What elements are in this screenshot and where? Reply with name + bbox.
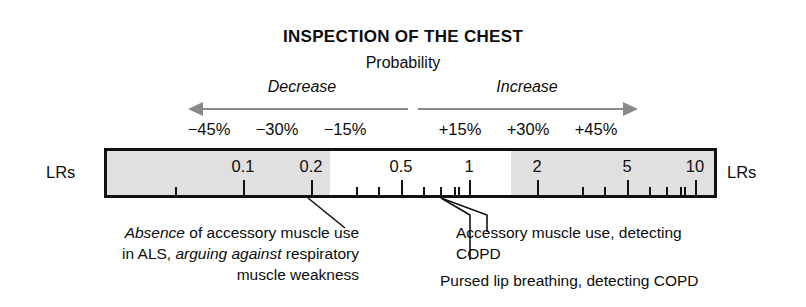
likelihood-ratio-diagram: INSPECTION OF THE CHEST Probability Decr… xyxy=(0,0,806,307)
major-tick-5 xyxy=(627,180,629,195)
annotation-left-line3: muscle weakness xyxy=(237,266,359,283)
lrs-label-right: LRs xyxy=(727,163,756,182)
annotation-left-line2-rest: respiratory xyxy=(281,245,359,262)
scale-number-1: 0.2 xyxy=(286,157,336,176)
minor-tick-7 xyxy=(582,187,584,195)
annotation-left-line2-italic: arguing against xyxy=(175,245,281,262)
direction-arrows xyxy=(0,100,806,118)
arrow-left-head-icon xyxy=(188,102,203,116)
minor-tick-10 xyxy=(666,187,668,195)
likelihood-ratio-scale: 0.10.20.512510 xyxy=(104,148,717,198)
scale-number-6: 10 xyxy=(670,157,717,176)
scale-number-3: 1 xyxy=(444,157,494,176)
annotation-right-accessory: Accessory muscle use, detecting COPD xyxy=(456,222,806,264)
minor-tick-0 xyxy=(175,187,177,195)
arrow-left-shaft xyxy=(202,108,408,110)
minor-tick-11 xyxy=(680,187,682,195)
scale-number-4: 2 xyxy=(512,157,562,176)
scale-number-2: 0.5 xyxy=(376,157,426,176)
percent-label-0: −45% xyxy=(177,120,241,139)
minor-tick-2 xyxy=(378,187,380,195)
decrease-label: Decrease xyxy=(212,78,392,96)
minor-tick-3 xyxy=(423,187,425,195)
annotation-left: Absence of accessory muscle use in ALS, … xyxy=(14,222,359,285)
annotation-right-pursed: Pursed lip breathing, detecting COPD xyxy=(440,270,806,291)
scale-number-0: 0.1 xyxy=(218,157,268,176)
arrow-right-shaft xyxy=(418,108,624,110)
increase-label: Increase xyxy=(437,78,617,96)
major-tick-2 xyxy=(401,180,403,195)
percent-label-4: +30% xyxy=(496,120,560,139)
scale-number-5: 5 xyxy=(602,157,652,176)
major-tick-1 xyxy=(311,180,313,195)
annotation-right1-line1: Accessory muscle use, detecting xyxy=(456,224,682,241)
minor-tick-1 xyxy=(356,187,358,195)
minor-tick-5 xyxy=(454,187,456,195)
major-tick-3 xyxy=(469,180,471,195)
major-tick-6 xyxy=(695,180,697,195)
minor-tick-9 xyxy=(649,187,651,195)
percent-label-3: +15% xyxy=(428,120,492,139)
minor-tick-12 xyxy=(684,187,686,195)
percent-label-1: −30% xyxy=(245,120,309,139)
minor-tick-4 xyxy=(440,187,442,195)
lrs-label-left: LRs xyxy=(46,163,75,182)
arrow-right-head-icon xyxy=(623,102,638,116)
percent-label-2: −15% xyxy=(313,120,377,139)
major-tick-0 xyxy=(243,180,245,195)
minor-tick-8 xyxy=(604,187,606,195)
annotation-right1-line2: COPD xyxy=(456,245,501,262)
annotation-left-line2-pre: in ALS, xyxy=(122,245,175,262)
annotation-right2-line1: Pursed lip breathing, detecting COPD xyxy=(440,272,698,289)
annotation-left-line1-italic: Absence xyxy=(125,224,185,241)
percent-label-5: +45% xyxy=(564,120,628,139)
minor-tick-6 xyxy=(458,187,460,195)
diagram-subtitle: Probability xyxy=(0,54,806,72)
diagram-title: INSPECTION OF THE CHEST xyxy=(0,27,806,47)
annotation-left-line1-rest: of accessory muscle use xyxy=(185,224,359,241)
major-tick-4 xyxy=(537,180,539,195)
scale-bar: 0.10.20.512510 xyxy=(104,148,717,198)
